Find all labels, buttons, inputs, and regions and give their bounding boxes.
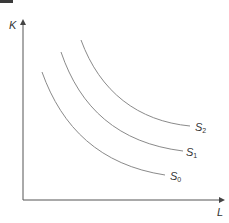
curve-label-s1: S1 <box>186 147 197 159</box>
y-axis-label: K <box>9 20 16 31</box>
curve-label-s0: S0 <box>170 171 181 183</box>
curve-label-subscript: 2 <box>202 127 206 134</box>
curve-s1 <box>61 52 183 151</box>
isoquant-diagram <box>0 0 229 223</box>
curve-label-s2: S2 <box>195 122 206 134</box>
curve-s0 <box>42 72 165 175</box>
curve-label-subscript: 1 <box>193 152 197 159</box>
x-axis-label: L <box>217 207 223 218</box>
curve-label-subscript: 0 <box>177 176 181 183</box>
